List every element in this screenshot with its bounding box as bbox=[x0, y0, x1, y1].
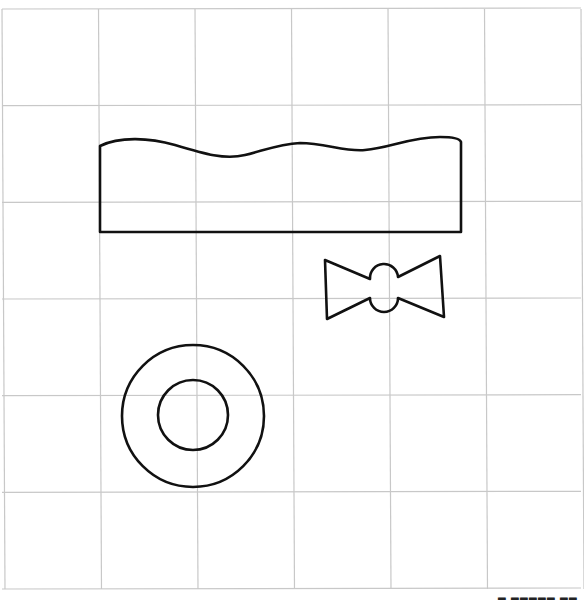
bow-tie bbox=[325, 256, 444, 319]
grid-horizontal-line bbox=[2, 491, 581, 492]
grid-vertical-line bbox=[388, 9, 391, 589]
ring-inner-circle bbox=[158, 380, 228, 450]
grid-horizontal-line bbox=[2, 588, 581, 589]
grid-horizontal-line bbox=[2, 105, 581, 106]
grid bbox=[2, 8, 584, 589]
grid-horizontal-line bbox=[2, 298, 581, 299]
grid-vertical-line bbox=[485, 9, 488, 589]
grid-horizontal-line bbox=[2, 8, 581, 9]
grid-horizontal-line bbox=[2, 395, 581, 396]
ring-outer-circle bbox=[122, 345, 264, 487]
wavy-top-rectangle bbox=[100, 137, 461, 232]
footer-mark: ▂ ▂▂▂▂▂ ▂▂ bbox=[498, 589, 578, 600]
grid-horizontal-line bbox=[2, 201, 581, 202]
